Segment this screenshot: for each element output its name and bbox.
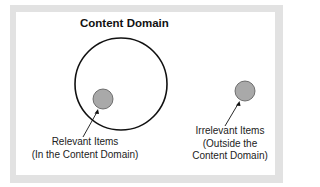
relevant-label-line1: Relevant Items	[25, 136, 145, 149]
relevant-label-line2: (In the Content Domain)	[25, 149, 145, 162]
irrelevant-item-circle	[235, 81, 255, 101]
irrelevant-label-line2: (Outside the	[180, 138, 280, 151]
irrelevant-items-label: Irrelevant Items (Outside the Content Do…	[180, 125, 280, 163]
content-domain-title: Content Domain	[80, 17, 169, 29]
irrelevant-label-line1: Irrelevant Items	[180, 125, 280, 138]
content-domain-circle	[75, 38, 167, 130]
irrelevant-arrow-icon	[225, 101, 241, 126]
irrelevant-label-line3: Content Domain)	[180, 150, 280, 163]
relevant-item-circle	[93, 89, 113, 109]
relevant-items-label: Relevant Items (In the Content Domain)	[25, 136, 145, 161]
